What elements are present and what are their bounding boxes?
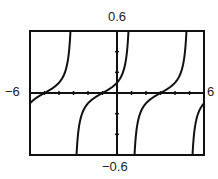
chart-plot: [0, 0, 218, 179]
